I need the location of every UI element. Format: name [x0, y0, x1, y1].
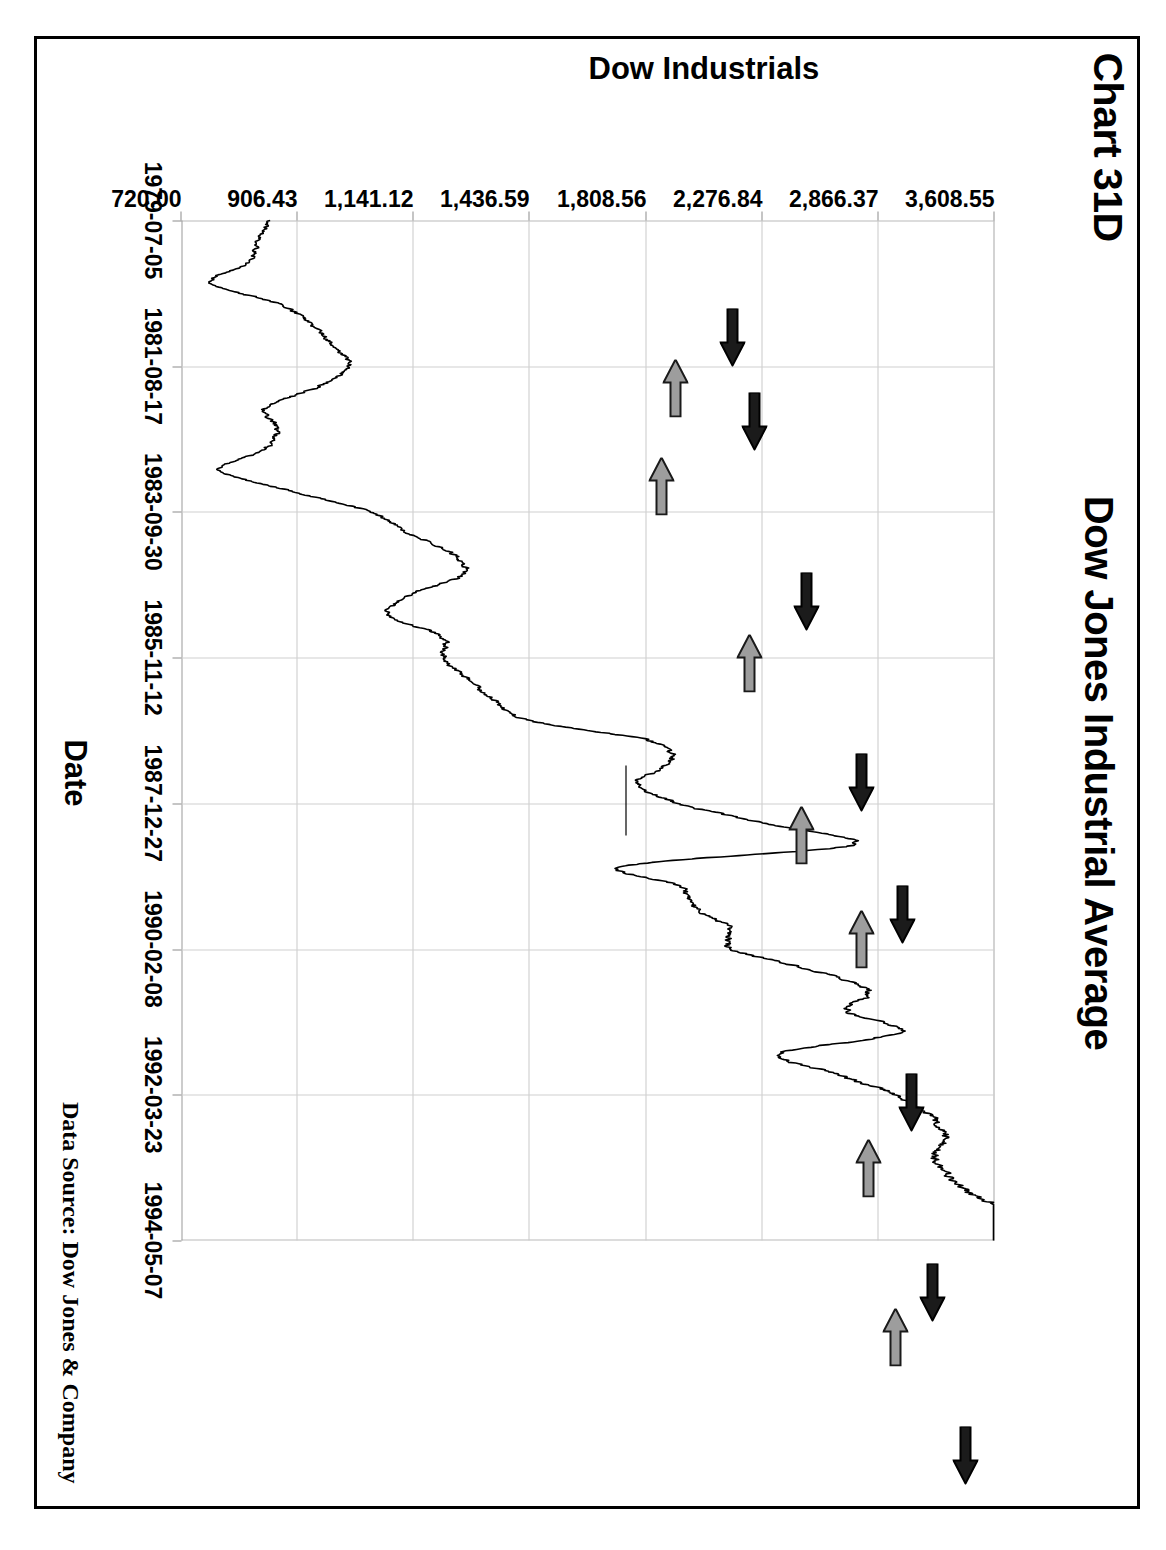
x-tick-mark: [172, 1240, 181, 1241]
dow-industrials-line: [181, 220, 994, 1240]
peak-arrow-icon: [898, 1073, 924, 1131]
y-axis-title: Dow Industrials: [588, 50, 819, 86]
trough-arrow-icon: [848, 910, 874, 968]
x-tick-mark: [172, 949, 181, 950]
peak-arrow-icon: [741, 392, 767, 450]
y-tick-label: 1,808.56: [556, 185, 646, 212]
peak-arrow-icon: [919, 1263, 945, 1321]
y-tick-label: 2,276.84: [672, 185, 762, 212]
peak-arrow-icon: [719, 308, 745, 366]
x-tick-mark: [172, 803, 181, 804]
x-tick-label: 1992-03-23: [138, 1035, 165, 1153]
x-tick-mark: [172, 1094, 181, 1095]
trough-arrow-icon: [855, 1139, 881, 1197]
trough-arrow-icon: [648, 457, 674, 515]
x-tick-label: 1990-02-08: [138, 890, 165, 1008]
x-tick-label: 1985-11-12: [138, 599, 165, 715]
x-tick-mark: [172, 511, 181, 512]
y-tick-label: 1,436.59: [440, 185, 530, 212]
peak-arrow-icon: [952, 1426, 978, 1484]
chart-page-frame: Chart 31D Dow Jones Industrial Average 3…: [34, 36, 1140, 1509]
x-tick-label: 1994-05-07: [138, 1181, 165, 1299]
y-tick-label: 3,608.55: [904, 185, 994, 212]
y-tick-label: 1,141.12: [324, 185, 414, 212]
series-path: [208, 220, 993, 1240]
x-tick-label: 1987-12-27: [138, 744, 165, 862]
trough-arrow-icon: [736, 634, 762, 692]
data-source-credit: Data Source: Dow Jones & Company: [56, 1101, 83, 1483]
plot-area: [181, 220, 994, 1240]
trough-arrow-icon: [788, 806, 814, 864]
page-title: Dow Jones Industrial Average: [1075, 36, 1120, 1509]
x-tick-label: 1983-09-30: [138, 453, 165, 571]
x-tick-label: 1981-08-17: [138, 307, 165, 425]
peak-arrow-icon: [793, 572, 819, 630]
x-tick-mark: [172, 220, 181, 221]
trough-arrow-icon: [882, 1308, 908, 1366]
x-tick-label: 1979-07-05: [138, 161, 165, 279]
peak-arrow-icon: [848, 753, 874, 811]
trough-arrow-icon: [662, 359, 688, 417]
peak-arrow-icon: [889, 885, 915, 943]
y-tick-label: 2,866.37: [788, 185, 878, 212]
y-tick-label: 906.43: [227, 185, 297, 212]
rotated-chart-canvas: Chart 31D Dow Jones Industrial Average 3…: [34, 36, 1140, 1509]
x-tick-mark: [172, 366, 181, 367]
x-tick-mark: [172, 657, 181, 658]
